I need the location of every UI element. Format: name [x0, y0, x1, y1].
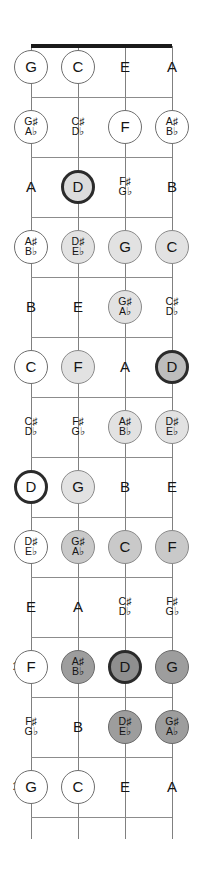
fret-wire-1: [31, 97, 172, 98]
fret-wire-8: [31, 517, 172, 518]
note-fret2-string4[interactable]: B: [155, 170, 189, 204]
note-fret0-string2[interactable]: C: [61, 50, 95, 84]
note-fret1-string1[interactable]: G♯A♭: [14, 110, 48, 144]
note-label: C: [73, 780, 84, 794]
note-fret8-string1[interactable]: D♯E♭: [14, 530, 48, 564]
note-label-flat: D♭: [166, 307, 179, 317]
fretboard-diagram: GCEAG♯A♭C♯D♭FA♯B♭ADF♯G♭BA♯B♭D♯E♭GCBEG♯A♭…: [0, 0, 203, 887]
note-label: C: [73, 60, 84, 74]
note-fret9-string1[interactable]: E: [14, 590, 48, 624]
note-label-flat: E♭: [25, 547, 37, 557]
note-fret9-string2[interactable]: A: [61, 590, 95, 624]
note-fret3-string2[interactable]: D♯E♭: [61, 230, 95, 264]
note-fret3-string3[interactable]: G: [108, 230, 142, 264]
note-fret7-string2[interactable]: G: [61, 470, 95, 504]
fret-wire-13: [31, 817, 172, 818]
note-label: G: [119, 240, 131, 254]
note-fret5-string4[interactable]: D: [155, 350, 189, 384]
fret-wire-3: [31, 217, 172, 218]
fret-wire-2: [31, 157, 172, 158]
note-label-flat: B♭: [119, 427, 131, 437]
note-label-flat: B♭: [25, 247, 37, 257]
note-fret11-string3[interactable]: D♯E♭: [108, 710, 142, 744]
note-label: C: [120, 540, 131, 554]
note-label: A: [73, 600, 83, 614]
note-label-flat: D♭: [25, 427, 38, 437]
note-fret1-string3[interactable]: F: [108, 110, 142, 144]
note-fret0-string4[interactable]: A: [155, 50, 189, 84]
note-fret8-string3[interactable]: C: [108, 530, 142, 564]
fret-wire-6: [31, 397, 172, 398]
note-fret12-string3[interactable]: E: [108, 770, 142, 804]
note-fret12-string2[interactable]: C: [61, 770, 95, 804]
note-label: B: [73, 720, 83, 734]
note-fret12-string4[interactable]: A: [155, 770, 189, 804]
note-label: G: [25, 60, 37, 74]
note-fret10-string4[interactable]: G: [155, 650, 189, 684]
note-label-flat: A♭: [166, 727, 178, 737]
note-label: F: [26, 660, 35, 674]
note-label: E: [167, 480, 177, 494]
note-label: F: [73, 360, 82, 374]
note-label: G: [72, 480, 84, 494]
note-label-flat: B♭: [166, 127, 178, 137]
note-fret4-string3[interactable]: G♯A♭: [108, 290, 142, 324]
note-label-flat: B♭: [72, 667, 84, 677]
fret-wire-11: [31, 697, 172, 698]
note-fret5-string2[interactable]: F: [61, 350, 95, 384]
fret-wire-5: [31, 337, 172, 338]
note-fret0-string3[interactable]: E: [108, 50, 142, 84]
note-fret3-string1[interactable]: A♯B♭: [14, 230, 48, 264]
note-fret6-string3[interactable]: A♯B♭: [108, 410, 142, 444]
note-label: B: [26, 300, 36, 314]
note-fret7-string4[interactable]: E: [155, 470, 189, 504]
note-label-flat: G♭: [71, 427, 84, 437]
note-fret10-string2[interactable]: A♯B♭: [61, 650, 95, 684]
note-fret9-string4[interactable]: F♯G♭: [155, 590, 189, 624]
note-fret9-string3[interactable]: C♯D♭: [108, 590, 142, 624]
note-fret2-string2[interactable]: D: [61, 170, 95, 204]
note-fret7-string1[interactable]: D: [14, 470, 48, 504]
note-fret5-string1[interactable]: C: [14, 350, 48, 384]
note-fret1-string4[interactable]: A♯B♭: [155, 110, 189, 144]
note-fret8-string4[interactable]: F: [155, 530, 189, 564]
note-fret11-string2[interactable]: B: [61, 710, 95, 744]
note-fret11-string4[interactable]: G♯A♭: [155, 710, 189, 744]
note-label-flat: E♭: [119, 727, 131, 737]
note-label: A: [26, 180, 36, 194]
note-label: F: [120, 120, 129, 134]
note-fret6-string2[interactable]: F♯G♭: [61, 410, 95, 444]
note-label: D: [120, 660, 131, 674]
note-fret4-string4[interactable]: C♯D♭: [155, 290, 189, 324]
note-fret2-string1[interactable]: A: [14, 170, 48, 204]
note-fret0-string1[interactable]: G: [14, 50, 48, 84]
note-fret1-string2[interactable]: C♯D♭: [61, 110, 95, 144]
note-fret5-string3[interactable]: A: [108, 350, 142, 384]
note-fret11-string1[interactable]: F♯G♭: [14, 710, 48, 744]
note-fret3-string4[interactable]: C: [155, 230, 189, 264]
note-label-flat: A♭: [25, 127, 37, 137]
note-label: A: [167, 780, 177, 794]
note-label-flat: E♭: [166, 427, 178, 437]
note-label-flat: D♭: [72, 127, 85, 137]
note-fret2-string3[interactable]: F♯G♭: [108, 170, 142, 204]
note-fret12-string1[interactable]: G: [14, 770, 48, 804]
fret-wire-4: [31, 277, 172, 278]
note-fret4-string2[interactable]: E: [61, 290, 95, 324]
note-label-flat: A♭: [72, 547, 84, 557]
note-label: F: [167, 540, 176, 554]
note-label-flat: A♭: [119, 307, 131, 317]
note-label: C: [26, 360, 37, 374]
note-fret10-string1[interactable]: F: [14, 650, 48, 684]
note-fret6-string4[interactable]: D♯E♭: [155, 410, 189, 444]
note-fret4-string1[interactable]: B: [14, 290, 48, 324]
note-fret8-string2[interactable]: G♯A♭: [61, 530, 95, 564]
note-label: A: [120, 360, 130, 374]
note-fret6-string1[interactable]: C♯D♭: [14, 410, 48, 444]
note-label: E: [120, 60, 130, 74]
note-fret7-string3[interactable]: B: [108, 470, 142, 504]
note-label: B: [167, 180, 177, 194]
note-fret10-string3[interactable]: D: [108, 650, 142, 684]
nut: [31, 44, 172, 48]
note-label: G: [166, 660, 178, 674]
